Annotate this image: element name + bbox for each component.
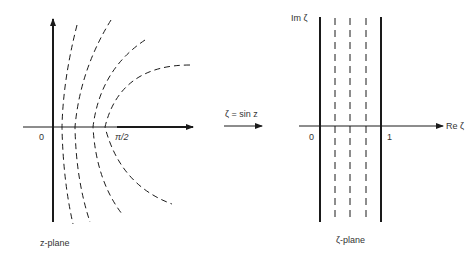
zeta-origin-label: 0 [309, 133, 314, 142]
zeta-dashed-lines [335, 18, 366, 222]
z-origin-label: 0 [39, 133, 44, 142]
z-dashed-curves [62, 20, 190, 224]
z-plane-panel [23, 19, 193, 224]
zeta-plane-panel [299, 17, 443, 222]
zeta-real-axis-label: Re ζ [446, 122, 464, 131]
z-pi-half-label: π/2 [115, 133, 129, 142]
z-curve-2 [75, 20, 111, 222]
mapping-label: ζ = sin z [225, 110, 258, 119]
conformal-map-diagram [0, 0, 474, 261]
zeta-one-label: 1 [387, 133, 392, 142]
z-plane-caption: z-plane [40, 239, 70, 248]
zeta-plane-caption: ζ-plane [336, 236, 365, 245]
zeta-imag-axis-label: Im ζ [291, 14, 307, 23]
